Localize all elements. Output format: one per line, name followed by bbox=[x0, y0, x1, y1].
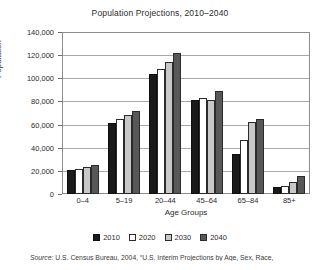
bar-2010-65–84[interactable] bbox=[232, 154, 240, 195]
legend-swatch-icon bbox=[200, 234, 207, 241]
legend-swatch-icon bbox=[129, 234, 136, 241]
bar-2030-20–44[interactable] bbox=[165, 62, 173, 194]
y-axis-tick-labels: 020,00040,00060,00080,000100,000120,0001… bbox=[0, 32, 58, 194]
legend: 2010202020302040 bbox=[0, 233, 320, 242]
x-tick-label: 65–84 bbox=[227, 196, 268, 205]
bar-2030-45–64[interactable] bbox=[207, 100, 215, 194]
legend-label: 2020 bbox=[139, 233, 156, 242]
x-tick-label: 5–19 bbox=[103, 196, 144, 205]
source-label: Source: bbox=[30, 254, 53, 261]
legend-item-2030[interactable]: 2030 bbox=[165, 233, 192, 242]
legend-item-2010[interactable]: 2010 bbox=[93, 233, 120, 242]
bar-group bbox=[186, 32, 227, 194]
y-tick-label: 140,000 bbox=[27, 28, 54, 37]
bar-2040-65–84[interactable] bbox=[256, 119, 264, 194]
bar-2040-20–44[interactable] bbox=[173, 53, 181, 194]
bar-2030-65–84[interactable] bbox=[248, 122, 256, 194]
bar-2040-5–19[interactable] bbox=[132, 111, 140, 194]
y-tick-mark bbox=[58, 194, 62, 195]
bar-2040-0–4[interactable] bbox=[91, 165, 99, 194]
bar-2010-85+[interactable] bbox=[273, 187, 281, 194]
bar-2020-45–64[interactable] bbox=[199, 98, 207, 194]
legend-item-2020[interactable]: 2020 bbox=[129, 233, 156, 242]
y-tick-label: 20,000 bbox=[31, 166, 54, 175]
legend-swatch-icon bbox=[93, 234, 100, 241]
bar-2020-85+[interactable] bbox=[281, 186, 289, 194]
y-tick-label: 120,000 bbox=[27, 51, 54, 60]
x-tick-label: 85+ bbox=[269, 196, 310, 205]
bar-2020-20–44[interactable] bbox=[157, 69, 165, 194]
source-note: Source: U.S. Census Bureau, 2004, “U.S. … bbox=[30, 254, 320, 261]
bar-2010-5–19[interactable] bbox=[108, 123, 116, 194]
bar-2030-5–19[interactable] bbox=[124, 115, 132, 194]
y-tick-label: 100,000 bbox=[27, 74, 54, 83]
bar-2040-45–64[interactable] bbox=[215, 91, 223, 194]
chart-page: Population Projections, 2010–2040 Popula… bbox=[0, 0, 320, 270]
bar-group bbox=[227, 32, 268, 194]
bar-group bbox=[145, 32, 186, 194]
y-tick-label: 40,000 bbox=[31, 143, 54, 152]
y-tick-label: 0 bbox=[50, 190, 54, 199]
y-tick-label: 60,000 bbox=[31, 120, 54, 129]
bar-2030-85+[interactable] bbox=[289, 182, 297, 194]
bar-group bbox=[62, 32, 103, 194]
page-title: Population Projections, 2010–2040 bbox=[0, 8, 320, 18]
bar-2020-65–84[interactable] bbox=[240, 140, 248, 194]
bar-2010-20–44[interactable] bbox=[149, 74, 157, 194]
bar-2040-85+[interactable] bbox=[297, 176, 305, 195]
x-axis-title: Age Groups bbox=[62, 208, 310, 217]
bar-2030-0–4[interactable] bbox=[83, 167, 91, 194]
bar-2020-0–4[interactable] bbox=[75, 169, 83, 194]
bar-groups bbox=[62, 32, 310, 194]
x-axis-tick-labels: 0–45–1920–4445–6465–8485+ bbox=[62, 196, 310, 205]
legend-label: 2030 bbox=[175, 233, 192, 242]
bar-2010-45–64[interactable] bbox=[191, 100, 199, 194]
legend-label: 2040 bbox=[210, 233, 227, 242]
x-tick-label: 20–44 bbox=[145, 196, 186, 205]
x-tick-label: 45–64 bbox=[186, 196, 227, 205]
bar-group bbox=[103, 32, 144, 194]
y-tick-label: 80,000 bbox=[31, 97, 54, 106]
legend-label: 2010 bbox=[103, 233, 120, 242]
bar-2020-5–19[interactable] bbox=[116, 119, 124, 194]
bar-2010-0–4[interactable] bbox=[67, 170, 75, 194]
bar-group bbox=[269, 32, 310, 194]
source-text: U.S. Census Bureau, 2004, “U.S. Interim … bbox=[53, 254, 273, 261]
legend-swatch-icon bbox=[165, 234, 172, 241]
legend-item-2040[interactable]: 2040 bbox=[200, 233, 227, 242]
x-tick-label: 0–4 bbox=[62, 196, 103, 205]
